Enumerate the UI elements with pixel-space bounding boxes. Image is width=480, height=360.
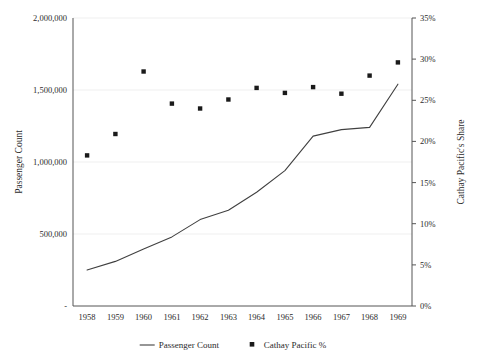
legend-label: Cathay Pacific % <box>264 340 327 350</box>
legend-square-swatch <box>250 342 255 347</box>
y-axis-right-tick-label: 5% <box>420 260 431 270</box>
scatter-marker <box>311 85 315 89</box>
y-axis-right-tick-label: 25% <box>420 95 436 105</box>
x-axis-tick-label: 1959 <box>107 312 124 322</box>
y-axis-left-tick-label: - <box>64 301 67 311</box>
y-axis-right-tick-label: 35% <box>420 13 436 23</box>
y-axis-right-tick-label: 10% <box>420 219 436 229</box>
x-axis-tick-label: 1963 <box>220 312 237 322</box>
x-axis-tick-label: 1964 <box>248 312 266 322</box>
scatter-marker <box>226 97 230 101</box>
scatter-marker <box>170 101 174 105</box>
scatter-marker <box>141 69 145 73</box>
scatter-marker <box>113 132 117 136</box>
scatter-marker <box>367 73 371 77</box>
chart-container: -500,0001,000,0001,500,0002,000,000 0%5%… <box>0 0 480 360</box>
x-axis-tick-label: 1967 <box>333 312 350 322</box>
x-axis-tick-label: 1960 <box>135 312 152 322</box>
x-axis-tick-label: 1968 <box>361 312 378 322</box>
scatter-marker <box>283 91 287 95</box>
x-axis-tick-label: 1965 <box>276 312 293 322</box>
scatter-marker <box>254 86 258 90</box>
x-axis-tick-label: 1961 <box>163 312 180 322</box>
y-axis-right-tick-label: 30% <box>420 54 436 64</box>
y-axis-right-tick-label: 0% <box>420 301 431 311</box>
y-axis-left-tick-label: 500,000 <box>39 229 67 239</box>
y-axis-left-tick-label: 1,500,000 <box>33 85 67 95</box>
scatter-marker <box>85 153 89 157</box>
y-axis-left-tick-label: 1,000,000 <box>33 157 67 167</box>
scatter-marker <box>339 92 343 96</box>
x-axis-tick-label: 1962 <box>192 312 209 322</box>
x-axis-tick-label: 1969 <box>389 312 406 322</box>
combo-chart: -500,0001,000,0001,500,0002,000,000 0%5%… <box>0 0 480 360</box>
y-axis-right-tick-label: 20% <box>420 136 436 146</box>
x-axis-tick-label: 1958 <box>79 312 96 322</box>
y-axis-right-tick-label: 15% <box>420 178 436 188</box>
y-axis-left-tick-label: 2,000,000 <box>33 13 67 23</box>
scatter-marker <box>198 106 202 110</box>
x-axis-tick-label: 1966 <box>305 312 322 322</box>
scatter-marker <box>396 60 400 64</box>
legend-label: Passenger Count <box>159 340 220 350</box>
y-axis-right-title: Cathay Pacific's Share <box>456 119 466 204</box>
y-axis-left-title: Passenger Count <box>14 130 24 194</box>
